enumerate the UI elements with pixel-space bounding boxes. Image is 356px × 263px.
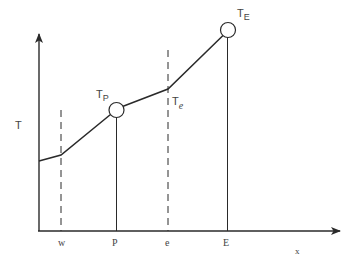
x-axis-label: x <box>295 246 300 256</box>
face-e-label: Te <box>172 95 184 111</box>
x-tick-w: w <box>58 237 66 248</box>
face-e-label-sub: e <box>179 100 184 111</box>
node-E-label: TE <box>237 7 250 22</box>
node-E-label-sub: E <box>244 12 250 22</box>
node-P-circle <box>109 103 124 118</box>
temperature-profile-diagram: T TP TE Te w P e E x <box>0 0 356 263</box>
node-P-label-sub: P <box>103 93 109 103</box>
x-tick-E: E <box>223 237 229 248</box>
temperature-profile-line <box>39 115 111 162</box>
node-E-circle <box>221 23 236 38</box>
x-tick-P: P <box>112 237 118 248</box>
node-P-label: TP <box>96 88 109 103</box>
x-tick-e: e <box>165 237 170 248</box>
y-axis-label: T <box>15 119 22 131</box>
